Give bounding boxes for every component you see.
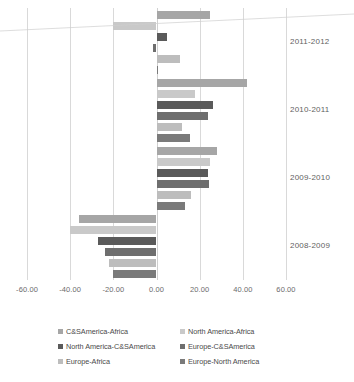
x-tick-label: 20.00 (190, 285, 209, 294)
bar (157, 79, 248, 87)
legend-swatch-icon (58, 344, 63, 349)
legend-swatch-icon (180, 344, 185, 349)
legend-item[interactable]: C&SAmerica-Africa (58, 327, 128, 336)
category-label-2011-2012: 2011-2012 (290, 37, 329, 46)
bar (157, 202, 185, 210)
bar (153, 44, 156, 52)
bar (157, 147, 217, 155)
bar (157, 169, 209, 177)
legend-item[interactable]: Europe-North America (180, 357, 259, 366)
bar-group-2008-2009 (27, 212, 286, 280)
legend-item[interactable]: Europe-C&SAmerica (180, 342, 255, 351)
legend-item[interactable]: Europe-Africa (58, 357, 110, 366)
x-tick-label: -40.00 (59, 285, 81, 294)
x-tick-label: 60.00 (276, 285, 295, 294)
bar (157, 112, 209, 120)
bar (70, 226, 156, 234)
legend-label: North America-C&SAmerica (66, 342, 155, 351)
x-axis-tick-labels: -60.00-40.00-20.000.0020.0040.0060.00 (0, 285, 354, 299)
legend-swatch-icon (180, 329, 185, 334)
category-label-2010-2011: 2010-2011 (290, 105, 329, 114)
bar-group-2011-2012 (27, 8, 286, 76)
category-label-2009-2010: 2009-2010 (290, 173, 330, 182)
bar (157, 191, 192, 199)
bar (157, 90, 196, 98)
bar (113, 22, 156, 30)
bar (109, 259, 156, 267)
legend-swatch-icon (58, 359, 63, 364)
legend-label: Europe-C&SAmerica (188, 342, 255, 351)
legend-item[interactable]: North America-C&SAmerica (58, 342, 155, 351)
bar (79, 215, 157, 223)
plot-area (27, 8, 286, 280)
bar (98, 237, 156, 245)
bar (157, 66, 159, 74)
legend-label: Europe-Africa (66, 357, 110, 366)
bar (157, 158, 211, 166)
legend-item[interactable]: North America-Africa (180, 327, 254, 336)
bar-chart: -60.00-40.00-20.000.0020.0040.0060.00 20… (0, 0, 354, 382)
legend-label: North America-Africa (188, 327, 254, 336)
category-label-2008-2009: 2008-2009 (290, 241, 330, 250)
bar (157, 101, 213, 109)
x-tick-label: -20.00 (102, 285, 124, 294)
chart-legend: C&SAmerica-AfricaNorth America-AfricaNor… (58, 327, 308, 375)
legend-swatch-icon (58, 329, 63, 334)
bar-group-2009-2010 (27, 144, 286, 212)
category-axis-labels: 2011-20122010-20112009-20102008-2009 (290, 8, 354, 280)
bar (157, 11, 211, 19)
plot-right-border (286, 8, 287, 280)
x-tick-label: -60.00 (16, 285, 38, 294)
bar (157, 123, 183, 131)
legend-label: Europe-North America (188, 357, 259, 366)
bar (157, 33, 168, 41)
legend-swatch-icon (180, 359, 185, 364)
bar (157, 134, 190, 142)
bar-group-2010-2011 (27, 76, 286, 144)
legend-label: C&SAmerica-Africa (66, 327, 128, 336)
bar (105, 248, 157, 256)
bar (157, 55, 181, 63)
bars-layer (27, 8, 286, 280)
x-tick-label: 0.00 (149, 285, 164, 294)
bar (113, 270, 156, 278)
bar (157, 180, 210, 188)
x-tick-label: 40.00 (233, 285, 252, 294)
